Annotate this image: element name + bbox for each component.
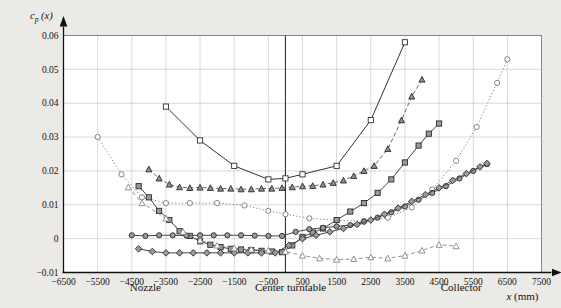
marker-circle-open: [307, 216, 312, 221]
marker-square-open: [368, 118, 373, 123]
marker-square-shaded: [416, 143, 421, 148]
marker-square-shaded: [146, 195, 151, 200]
x-tick-label: 7500: [532, 277, 551, 287]
chart-figure: −6500−5500−4500−3500−2500−1500−500500150…: [0, 0, 561, 308]
y-tick-label: 0.05: [42, 65, 59, 75]
x-tick-label: 6500: [498, 277, 517, 287]
marker-square-open: [163, 104, 168, 109]
x-tick-label: 1500: [327, 277, 346, 287]
marker-circle-open: [454, 158, 459, 163]
marker-square-open: [334, 163, 339, 168]
marker-circle-open: [505, 57, 510, 62]
marker-circle-open: [215, 200, 220, 205]
marker-square-shaded: [375, 190, 380, 195]
x-tick-label: 2500: [361, 277, 380, 287]
marker-square-shaded: [238, 247, 243, 252]
y-tick-label: 0.03: [42, 132, 59, 142]
marker-circle-open: [187, 200, 192, 205]
marker-square-shaded: [426, 131, 431, 136]
y-tick-label: 0.02: [42, 166, 59, 176]
marker-circle-shaded: [238, 233, 243, 238]
y-axis-title: cp (x): [30, 10, 53, 24]
marker-circle-open: [119, 172, 124, 177]
y-tick-label: 0: [54, 234, 59, 244]
x-tick-label: −6500: [51, 277, 76, 287]
chart-canvas: −6500−5500−4500−3500−2500−1500−500500150…: [0, 0, 561, 308]
marker-circle-open: [95, 134, 100, 139]
marker-circle-shaded: [157, 233, 162, 238]
marker-circle-shaded: [293, 229, 298, 234]
marker-circle-open: [474, 124, 479, 129]
annotation-nozzle: Nozzle: [130, 281, 161, 293]
chart-svg: −6500−5500−4500−3500−2500−1500−500500150…: [0, 0, 561, 308]
marker-square-open: [300, 172, 305, 177]
marker-circle-shaded: [266, 233, 271, 238]
marker-square-shaded: [348, 209, 353, 214]
y-tick-label: 0.06: [42, 31, 59, 41]
y-tick-label: 0.04: [42, 98, 59, 108]
marker-circle-shaded: [225, 233, 230, 238]
x-tick-label: −2500: [188, 277, 213, 287]
marker-square-shaded: [389, 177, 394, 182]
marker-circle-open: [283, 212, 288, 217]
marker-square-shaded: [402, 160, 407, 165]
marker-square-open: [283, 176, 288, 181]
x-tick-label: 3500: [395, 277, 414, 287]
marker-square-shaded: [157, 208, 162, 213]
annotation-collector: Collector: [441, 281, 482, 293]
marker-circle-open: [266, 208, 271, 213]
marker-square-open: [402, 40, 407, 45]
x-tick-label: −1500: [222, 277, 247, 287]
y-tick-label: −0.01: [37, 268, 59, 278]
marker-circle-shaded: [252, 233, 257, 238]
marker-square-shaded: [334, 217, 339, 222]
marker-circle-shaded: [320, 225, 325, 230]
marker-circle-shaded: [129, 233, 134, 238]
marker-square-shaded: [436, 121, 441, 126]
marker-circle-shaded: [334, 224, 339, 229]
marker-circle-open: [242, 203, 247, 208]
marker-square-open: [266, 177, 271, 182]
marker-circle-shaded: [279, 233, 284, 238]
y-tick-label: 0.01: [42, 200, 59, 210]
marker-circle-open: [409, 205, 414, 210]
marker-square-open: [232, 163, 237, 168]
marker-circle-shaded: [307, 227, 312, 232]
marker-circle-open: [163, 200, 168, 205]
marker-circle-shaded: [143, 233, 148, 238]
annotation-center-turntable: Center turntable: [255, 281, 326, 293]
marker-circle-shaded: [211, 233, 216, 238]
x-tick-label: −5500: [85, 277, 110, 287]
marker-square-shaded: [136, 184, 141, 189]
marker-circle-open: [495, 80, 500, 85]
marker-square-shaded: [361, 200, 366, 205]
marker-square-open: [197, 138, 202, 143]
marker-circle-shaded: [170, 233, 175, 238]
x-axis-title: x (mm): [505, 290, 538, 303]
